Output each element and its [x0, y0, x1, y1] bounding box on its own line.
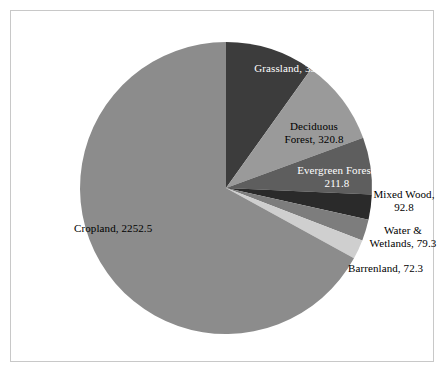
pie-label-water-wetlands: Water & Wetlands, 79.3	[362, 224, 444, 250]
pie-label-mixed-wood: Mixed Wood, 92.8	[364, 188, 444, 214]
pie-label-evergreen-forest-line1: Evergreen Forest,	[276, 164, 398, 177]
pie-label-barrenland-text: Barrenland, 72.3	[348, 262, 423, 274]
pie-label-grassland: Grassland, 332	[228, 62, 348, 75]
pie-label-grassland-text: Grassland, 332	[254, 62, 321, 74]
pie-label-mixed-wood-line2: 92.8	[364, 201, 444, 214]
chart-plot-area: Grassland, 332 Deciduous Forest, 320.8 E…	[0, 0, 446, 374]
pie-label-mixed-wood-line1: Mixed Wood,	[364, 188, 444, 201]
pie-label-deciduous-forest-line2: Forest, 320.8	[256, 133, 372, 146]
pie-label-water-wetlands-line2: Wetlands, 79.3	[362, 237, 444, 250]
pie-label-cropland: Cropland, 2252.5	[74, 222, 194, 235]
pie-label-water-wetlands-line1: Water &	[362, 224, 444, 237]
pie-label-deciduous-forest-line1: Deciduous	[256, 120, 372, 133]
pie-label-cropland-text: Cropland, 2252.5	[74, 222, 152, 234]
pie-label-deciduous-forest: Deciduous Forest, 320.8	[256, 120, 372, 146]
pie-label-barrenland: Barrenland, 72.3	[348, 262, 444, 275]
pie-label-evergreen-forest: Evergreen Forest, 211.8	[276, 164, 398, 190]
